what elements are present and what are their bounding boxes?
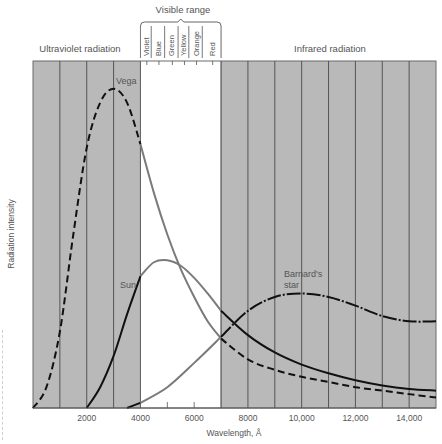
x-tick-label: 10,000 bbox=[289, 413, 315, 423]
band-label-blue: Blue bbox=[154, 41, 163, 56]
band-label-red: Red bbox=[208, 42, 217, 56]
spectrum-chart: VioletBlueGreenYellowOrangeRed 200040006… bbox=[0, 0, 442, 444]
sun-curve-label: Sun bbox=[120, 280, 136, 290]
y-axis-label: Radiation intensity bbox=[6, 199, 16, 269]
x-tick-label: 12,000 bbox=[342, 413, 368, 423]
uv-region-label: Ultraviolet radiation bbox=[39, 43, 120, 54]
vega-curve-label: Vega bbox=[116, 76, 137, 86]
x-tick-label: 2000 bbox=[77, 413, 96, 423]
x-axis-label: Wavelength, Å bbox=[207, 428, 262, 438]
band-label-orange: Orange bbox=[192, 31, 201, 56]
band-label-green: Green bbox=[167, 35, 176, 56]
region-shading bbox=[33, 61, 436, 408]
x-tick-label: 14,000 bbox=[396, 413, 422, 423]
barnard-curve-label-line1: Barnard's bbox=[284, 269, 323, 279]
band-label-yellow: Yellow bbox=[179, 34, 188, 56]
visible-range-label: Visible range bbox=[156, 4, 211, 15]
ir-region-label: Infrared radiation bbox=[294, 43, 366, 54]
x-tick-label: 4000 bbox=[131, 413, 150, 423]
band-label-violet: Violet bbox=[142, 36, 151, 56]
x-tick-label: 8000 bbox=[238, 413, 257, 423]
barnard-curve-label-line2: star bbox=[284, 280, 299, 290]
x-tick-label: 6000 bbox=[185, 413, 204, 423]
visible-band-labels: VioletBlueGreenYellowOrangeRed bbox=[140, 19, 221, 65]
region-visible-range bbox=[140, 61, 221, 408]
